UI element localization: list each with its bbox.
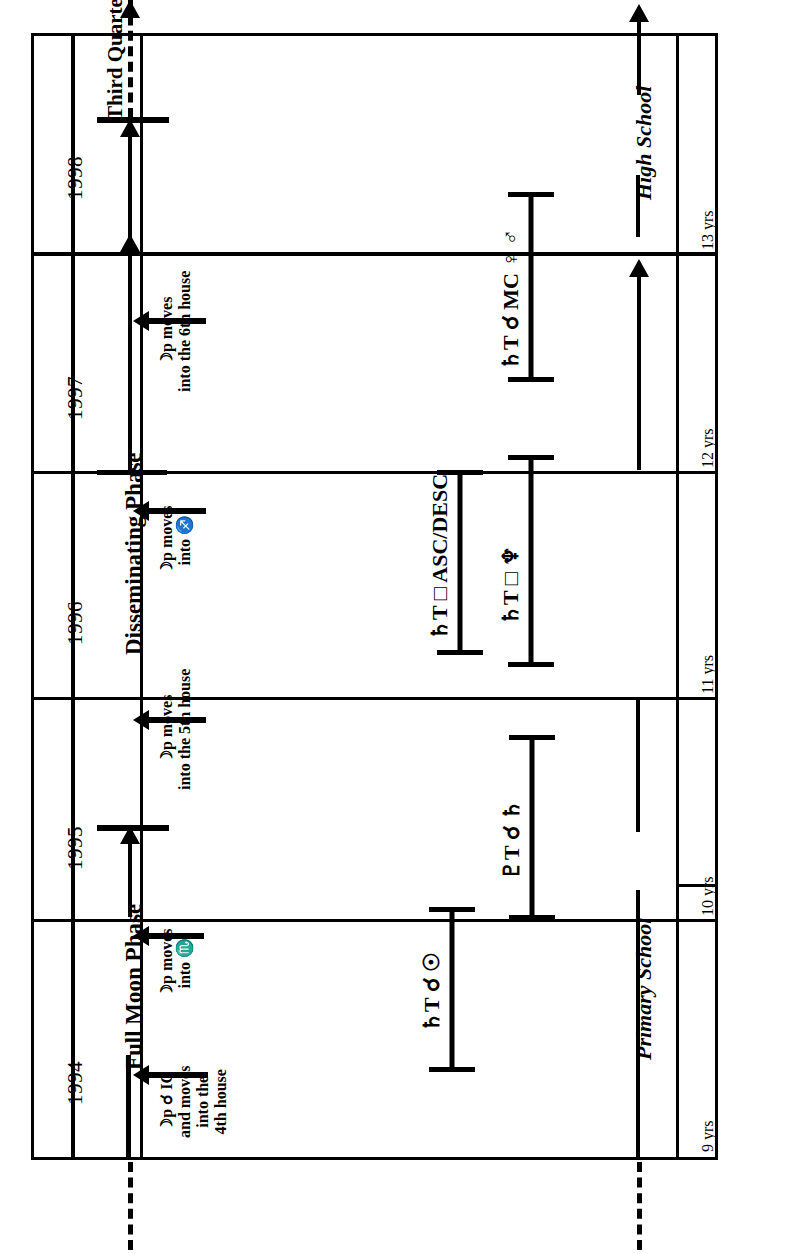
transit-label-saturn-sq-neptune: ♄T □ ♆ [499, 546, 522, 625]
progression-note-5th-house: ☽p moves into the 5th house [158, 669, 194, 790]
high-school-arrow [637, 275, 641, 470]
age-label-10yrs: 10 yrs [700, 876, 717, 916]
primary-school-stem-upper [636, 700, 640, 832]
ibeam-cap-bottom [429, 1067, 475, 1072]
ibeam-cap-bottom [437, 650, 483, 655]
progression-note-sagittarius: ☽p moves into ♐ [158, 505, 194, 575]
year-separator-1996-1995 [31, 697, 718, 700]
year-separator-1998-1997 [31, 252, 718, 256]
ibeam-cap-bottom [508, 662, 554, 667]
age-label-13yrs: 13 yrs [700, 210, 717, 250]
disseminating-phase-arrow [128, 250, 132, 472]
high-school-top-arrow [637, 20, 641, 95]
year-column-divider [71, 33, 75, 1160]
age-label-11yrs: 11 yrs [700, 655, 717, 694]
age-column-divider [676, 33, 679, 1160]
ibeam-stem [530, 735, 535, 920]
timeline-diagram: 1998 1997 1996 1995 1994 13 yrs 12 yrs 1… [0, 0, 797, 1254]
transit-label-pluto-conj-saturn: ♇T ☌ ♄ [500, 800, 523, 880]
ibeam-stem [529, 455, 534, 667]
high-school-label: High School [632, 86, 655, 200]
ibeam-stem [458, 470, 463, 655]
year-label-1995: 1995 [64, 826, 86, 870]
bottom-dashed-continuation-left [128, 1162, 133, 1250]
progression-note-scorpio: ☽p moves into ♏ [158, 928, 194, 998]
transit-label-saturn-conj-mc: ♄T ☌ MC ♀ ♂ [499, 229, 522, 370]
third-quarter-phase-label: Third Quarter Phase [104, 0, 128, 120]
full-moon-phase-stem [126, 1055, 131, 1160]
year-label-1994: 1994 [64, 1061, 86, 1105]
transit-label-saturn-conj-sun: ♄T ☌ ☉ [420, 952, 443, 1032]
progression-note-6th-house: ☽p moves into the 6th house [158, 271, 194, 392]
transit-label-saturn-sq-asc-desc: ♄T □ ASC/DESC [428, 474, 451, 640]
disseminating-phase-label: Disseminating Phase [122, 452, 146, 655]
year-label-1997: 1997 [64, 376, 86, 420]
year-label-1996: 1996 [64, 601, 86, 645]
ibeam-cap-bottom [509, 915, 555, 920]
age-label-9yrs: 9 yrs [700, 1120, 717, 1152]
primary-school-label: Primary School [632, 918, 655, 1060]
ibeam-stem [450, 907, 455, 1072]
age-label-12yrs: 12 yrs [700, 428, 717, 468]
ibeam-cap-bottom [508, 377, 554, 382]
ibeam-stem [529, 192, 534, 382]
year-label-1998: 1998 [64, 156, 86, 200]
progression-note-ic: ☽p ☌ IC and moves into the 4th house [158, 1066, 230, 1138]
bottom-dashed-continuation-right [637, 1162, 642, 1250]
